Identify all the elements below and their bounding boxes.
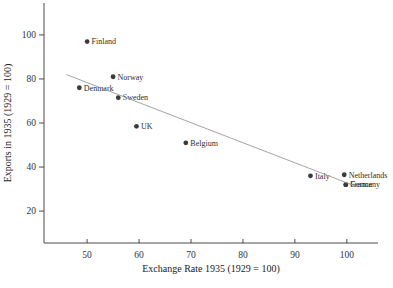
data-point-italy (308, 173, 313, 178)
x-tick-label: 60 (134, 250, 144, 260)
data-point-norway (111, 74, 116, 79)
x-tick-label: 90 (290, 250, 300, 260)
y-tick-label: 60 (27, 118, 37, 128)
y-tick-label: 80 (27, 74, 37, 84)
country-label-belgium: Belgium (190, 139, 218, 148)
country-label-france: France (350, 180, 372, 189)
data-point-denmark (77, 85, 82, 90)
country-label-uk: UK (141, 122, 153, 131)
data-point-uk (134, 124, 139, 129)
data-point-finland (85, 39, 90, 44)
y-tick-label: 40 (27, 162, 37, 172)
data-point-netherlands (342, 172, 347, 177)
chart-figure: 506070809010020406080100Exchange Rate 19… (0, 0, 393, 288)
data-point-sweden (116, 95, 121, 100)
scatter-chart: 506070809010020406080100Exchange Rate 19… (0, 0, 393, 288)
trend-line (66, 75, 357, 187)
data-point-belgium (183, 140, 188, 145)
country-label-norway: Norway (118, 73, 144, 82)
country-label-netherlands: Netherlands (349, 171, 388, 180)
x-tick-label: 70 (186, 250, 196, 260)
y-tick-label: 100 (22, 30, 37, 40)
y-tick-label: 20 (27, 206, 37, 216)
x-tick-label: 50 (82, 250, 92, 260)
country-label-finland: Finland (92, 37, 116, 46)
x-tick-label: 100 (340, 250, 355, 260)
y-axis-title: Exports in 1935 (1929 = 100) (2, 64, 14, 183)
x-tick-label: 80 (238, 250, 248, 260)
x-axis-title: Exchange Rate 1935 (1929 = 100) (142, 263, 280, 275)
